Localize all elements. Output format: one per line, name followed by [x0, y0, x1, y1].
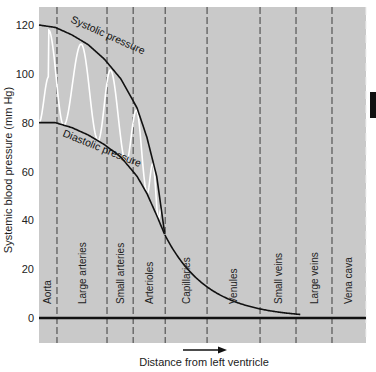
y-tick-label: 100: [16, 68, 34, 80]
segment-label: Small arteries: [115, 243, 126, 304]
direction-arrow: [183, 347, 227, 354]
segment-label: Capillaries: [181, 257, 192, 304]
y-tick-label: 0: [28, 312, 34, 324]
segment-label: Aorta: [42, 280, 53, 304]
x-axis-label: Distance from left ventricle: [139, 356, 269, 368]
y-tick-label: 120: [16, 19, 34, 31]
y-tick-label: 60: [22, 166, 34, 178]
segment-label: Arterioles: [144, 262, 155, 304]
y-tick-label: 40: [22, 214, 34, 226]
blood-pressure-chart: 020406080100120 AortaLarge arteriesSmall…: [0, 0, 376, 372]
segment-label: Large veins: [309, 252, 320, 304]
y-ticks: 020406080100120: [16, 19, 34, 324]
y-axis-label: Systemic blood pressure (mm Hg): [2, 87, 14, 253]
segment-label: Small veins: [273, 253, 284, 304]
y-tick-label: 20: [22, 263, 34, 275]
segment-label: Venules: [228, 268, 239, 304]
segment-label: Large arteries: [77, 242, 88, 304]
arrow-head: [218, 347, 227, 354]
segment-label: Vena cava: [343, 257, 354, 304]
y-tick-label: 80: [22, 117, 34, 129]
page-edge-tab: [370, 92, 376, 118]
